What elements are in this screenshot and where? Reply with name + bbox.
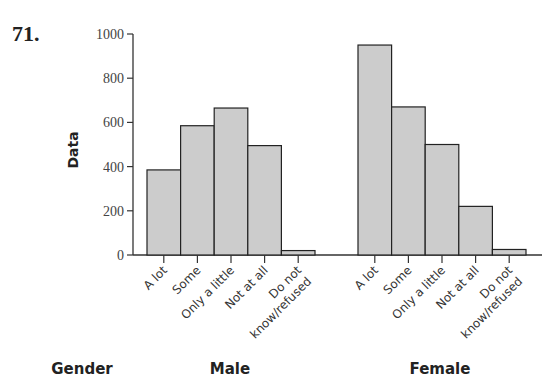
bar-female-2: [425, 145, 459, 256]
y-tick-label: 200: [103, 204, 124, 219]
bar-female-1: [392, 107, 426, 255]
group-label-female: Female: [410, 360, 471, 378]
y-tick-label: 1000: [96, 27, 124, 42]
bar-male-3: [248, 146, 282, 255]
x-tick-label: A lot: [141, 263, 170, 292]
bar-male-1: [181, 126, 215, 255]
bar-male-4: [281, 251, 315, 255]
x-axis-label: Gender: [51, 360, 113, 378]
bar-female-3: [459, 206, 493, 255]
y-tick-label: 0: [117, 248, 124, 263]
y-tick-label: 600: [103, 115, 124, 130]
bar-female-0: [358, 45, 392, 255]
bar-male-2: [214, 108, 248, 255]
group-label-male: Male: [210, 360, 250, 378]
y-tick-label: 800: [103, 71, 124, 86]
x-tick-label: A lot: [352, 263, 381, 292]
y-axis-label: Data: [65, 131, 81, 168]
bar-chart: 02004006008001000DataA lotSomeOnly a lit…: [0, 0, 553, 386]
y-tick-label: 400: [103, 160, 124, 175]
bar-male-0: [147, 170, 181, 255]
bar-female-4: [492, 249, 526, 255]
